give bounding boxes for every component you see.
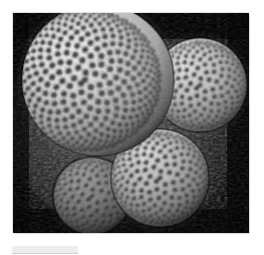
caption-placeholder-bar bbox=[12, 246, 78, 254]
photograph-frame bbox=[13, 13, 249, 233]
page-root bbox=[0, 0, 264, 255]
cactus-scene bbox=[13, 13, 249, 233]
film-grain bbox=[13, 13, 249, 233]
photograph-image bbox=[13, 13, 249, 233]
